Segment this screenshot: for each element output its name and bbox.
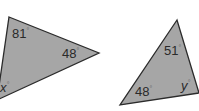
diagram-canvas: 81° 48° x° 51° 48° y° (0, 0, 199, 111)
